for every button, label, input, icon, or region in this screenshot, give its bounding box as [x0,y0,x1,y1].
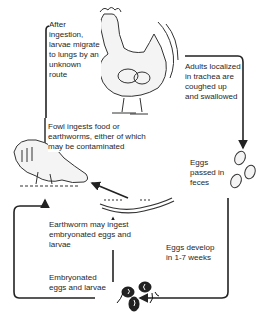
life-cycle-diagram: After ingestion, larvae migrate to lungs… [0,0,263,318]
step-earthworm-ingests: Earthworm may ingest embryonated eggs an… [49,220,131,250]
step-eggs-passed: Eggs passed in feces [190,158,230,188]
embryonated-eggs-illustration [117,282,159,311]
eggs-illustration [229,150,258,190]
step-larvae-migrate: After ingestion, larvae migrate to lungs… [49,20,101,80]
step-eggs-develop: Eggs develop in 1-7 weeks [166,243,222,263]
earthworm-illustration [100,198,174,213]
step-fowl-ingests: Fowl ingests food or earthworms, either … [48,122,148,152]
step-embryonated-eggs: Embryonated eggs and larvae [49,273,109,293]
step-adults-in-trachea: Adults localized in trachea are coughed … [185,62,241,102]
rooster-illustration [100,8,178,115]
